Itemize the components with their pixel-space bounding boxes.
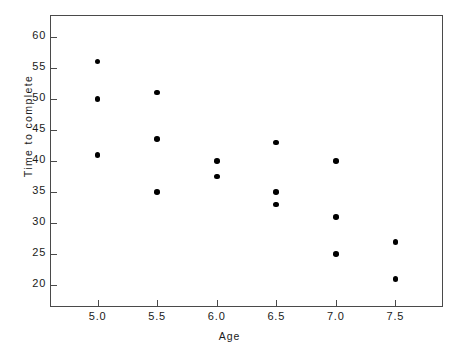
data-point <box>95 96 101 102</box>
data-point <box>154 90 160 96</box>
x-axis-tick-label: 5.0 <box>75 310 121 322</box>
y-axis-tick-label: 20 <box>4 277 46 289</box>
data-point <box>95 152 101 158</box>
x-axis-tick-label: 5.5 <box>134 310 180 322</box>
data-point <box>214 174 220 180</box>
y-axis-tick-label: 30 <box>4 215 46 227</box>
data-point <box>154 136 160 142</box>
scatter-plot-figure: 2025303540455055605.05.56.06.57.07.5 Age… <box>0 0 459 351</box>
x-axis-tick-label: 7.5 <box>372 310 418 322</box>
x-axis-label: Age <box>0 330 459 342</box>
data-point <box>95 59 101 65</box>
x-axis-tick-label: 6.5 <box>253 310 299 322</box>
data-point <box>393 239 399 245</box>
data-point <box>273 140 279 146</box>
data-point <box>333 251 339 257</box>
x-axis-tick-label: 6.0 <box>194 310 240 322</box>
plot-area <box>50 15 443 307</box>
y-axis-tick-label: 25 <box>4 246 46 258</box>
data-point <box>214 158 220 164</box>
x-axis-tick-label: 7.0 <box>313 310 359 322</box>
data-point <box>333 158 339 164</box>
data-point <box>333 214 339 220</box>
data-point <box>273 202 279 208</box>
data-point <box>273 189 279 195</box>
y-axis-label: Time to complete <box>22 36 34 216</box>
data-point <box>393 276 399 282</box>
data-point <box>154 189 160 195</box>
